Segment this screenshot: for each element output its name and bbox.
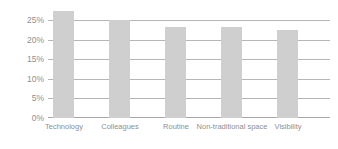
y-tick-label: 15% [0, 55, 44, 64]
bar-colleagues [109, 20, 130, 118]
bar-non-traditional-space [221, 27, 242, 118]
bar-routine [165, 27, 186, 118]
y-tick-label: 20% [0, 36, 44, 45]
bar-series [48, 20, 330, 118]
y-tick-label: 5% [0, 94, 44, 103]
plot-area [48, 20, 330, 118]
y-tick-label: 25% [0, 16, 44, 25]
y-tick-label: 10% [0, 75, 44, 84]
cropped-title-text [6, 0, 206, 5]
x-tick-label-visibility: Visibility [250, 122, 326, 132]
bar-chart: 25% 20% 15% 10% 5% 0% Technology Colleag… [0, 0, 338, 149]
x-axis-tick-labels: Technology Colleagues Routine Non-tradit… [48, 122, 330, 148]
y-axis-tick-labels: 25% 20% 15% 10% 5% 0% [0, 20, 44, 118]
bar-technology [53, 11, 74, 118]
bar-visibility [277, 30, 298, 118]
